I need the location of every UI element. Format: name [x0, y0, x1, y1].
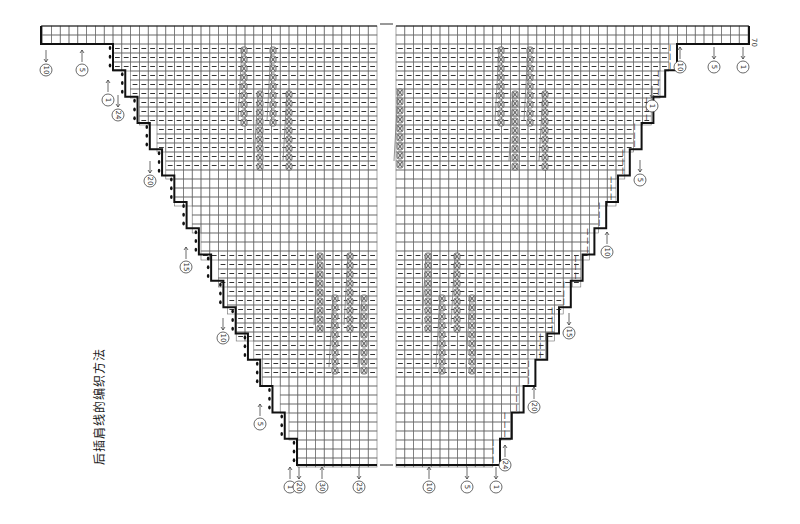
decrease-mark-icon: [121, 90, 124, 94]
decrease-symbol-icon: ꟾ: [669, 53, 671, 62]
cable-column: [422, 253, 431, 332]
cable-column: [436, 295, 445, 374]
svg-text:5: 5: [636, 178, 644, 182]
svg-text:25: 25: [355, 483, 363, 492]
decrease-symbol-icon: ꟾ: [504, 412, 506, 421]
svg-text:5: 5: [78, 68, 86, 72]
decrease-mark-icon: [293, 449, 296, 453]
decrease-symbol-icon: ꟾ: [598, 211, 600, 220]
decrease-symbol-icon: ꟾ: [492, 456, 494, 465]
row-count-label: 70: [750, 38, 758, 47]
decrease-mark-icon: [268, 388, 271, 392]
decrease-symbol-icon: ꟾ: [669, 62, 671, 71]
decrease-mark-icon: [121, 81, 124, 85]
decrease-mark-icon: [280, 432, 283, 436]
row-label-left_edge: 1: [102, 80, 114, 106]
decrease-mark-icon: [231, 309, 234, 313]
svg-text:10: 10: [219, 334, 227, 343]
svg-text:30: 30: [318, 483, 326, 492]
grid-lines: [43, 26, 748, 467]
decrease-mark-icon: [133, 99, 136, 103]
svg-text:10: 10: [676, 63, 684, 72]
row-label-left_edge: 5: [254, 404, 266, 430]
decrease-mark-icon: [158, 169, 161, 173]
decrease-mark-icon: [170, 178, 173, 182]
decrease-mark-icon: [244, 335, 247, 339]
decrease-symbol-icon: ꟾ: [586, 228, 588, 237]
svg-text:5: 5: [710, 65, 718, 69]
decrease-mark-icon: [293, 441, 296, 445]
decrease-mark-icon: [182, 221, 185, 225]
row-label-bottom: 25: [353, 467, 365, 493]
row-label-bottom: 5: [461, 467, 473, 493]
decrease-mark-icon: [133, 107, 136, 111]
decrease-symbol-icon: ꟾ: [610, 193, 612, 202]
svg-text:20: 20: [530, 403, 538, 412]
decrease-symbol-icon: ꟾ: [575, 255, 577, 264]
decrease-mark-icon: [109, 46, 112, 50]
decrease-symbol-icon: ꟾ: [504, 421, 506, 430]
decrease-mark-icon: [158, 151, 161, 155]
cable-column: [254, 91, 263, 170]
decrease-symbol-icon: ꟾ: [551, 325, 553, 334]
decrease-symbol-icon: ꟾ: [563, 290, 565, 299]
decrease-mark-icon: [293, 458, 296, 462]
decrease-symbol-icon: ꟾ: [539, 342, 541, 351]
decrease-mark-icon: [207, 257, 210, 261]
cable-column: [329, 295, 338, 374]
decrease-mark-icon: [268, 397, 271, 401]
svg-text:1: 1: [492, 485, 500, 489]
decrease-symbol-icon: ꟾ: [610, 176, 612, 185]
decrease-mark-icon: [268, 406, 271, 410]
decrease-mark-icon: [109, 64, 112, 68]
row-label-right_edge: 10: [601, 232, 613, 258]
svg-text:24: 24: [114, 111, 122, 120]
decrease-symbol-icon: ꟾ: [669, 44, 671, 53]
decrease-symbol-icon: ꟾ: [575, 263, 577, 272]
svg-text:1: 1: [286, 485, 294, 489]
decrease-symbol-icon: ꟾ: [634, 123, 636, 132]
svg-text:20: 20: [146, 177, 154, 186]
decrease-symbol-icon: ꟾ: [622, 167, 624, 176]
decrease-mark-icon: [256, 379, 259, 383]
svg-text:15: 15: [565, 329, 573, 338]
svg-text:1: 1: [739, 65, 747, 69]
decrease-mark-icon: [170, 195, 173, 199]
cable-column: [466, 295, 475, 374]
decrease-mark-icon: [195, 230, 198, 234]
decrease-mark-icon: [219, 300, 222, 304]
decrease-symbol-icon: ꟾ: [492, 439, 494, 448]
row-label-right_edge: 20: [528, 387, 540, 413]
decrease-symbol-icon: ꟾ: [575, 272, 577, 281]
decrease-symbol-icon: ꟾ: [657, 70, 659, 79]
decrease-symbol-icon: ꟾ: [586, 237, 588, 246]
svg-text:24: 24: [501, 461, 509, 470]
decrease-symbol-icon: ꟾ: [634, 140, 636, 149]
decrease-symbol-icon: ꟾ: [516, 395, 518, 404]
decrease-mark-icon: [207, 265, 210, 269]
decrease-mark-icon: [146, 125, 149, 129]
decrease-mark-icon: [158, 160, 161, 164]
decrease-mark-icon: [256, 362, 259, 366]
decrease-mark-icon: [170, 186, 173, 190]
decrease-symbol-icon: ꟾ: [657, 88, 659, 97]
row-label-bottom: 20: [293, 467, 305, 493]
row-label-bottom: 1: [490, 467, 502, 493]
decrease-symbol-icon: ꟾ: [598, 202, 600, 211]
decrease-mark-icon: [231, 318, 234, 322]
decrease-symbol-icon: ꟾ: [634, 132, 636, 141]
decrease-symbol-icon: ꟾ: [622, 149, 624, 158]
decrease-mark-icon: [146, 134, 149, 138]
row-label-top_right: 5: [708, 47, 720, 73]
svg-text:15: 15: [182, 263, 190, 272]
cable-column: [267, 47, 276, 126]
row-label-top_right: 10: [674, 47, 686, 73]
decrease-mark-icon: [146, 142, 149, 146]
decrease-symbol-icon: ꟾ: [657, 79, 659, 88]
decrease-symbol-icon: ꟾ: [527, 377, 529, 386]
decrease-symbol-icon: ꟾ: [527, 360, 529, 369]
svg-text:10: 10: [42, 66, 50, 75]
decrease-mark-icon: [244, 353, 247, 357]
decrease-symbol-icon: ꟾ: [563, 298, 565, 307]
decrease-mark-icon: [231, 327, 234, 331]
